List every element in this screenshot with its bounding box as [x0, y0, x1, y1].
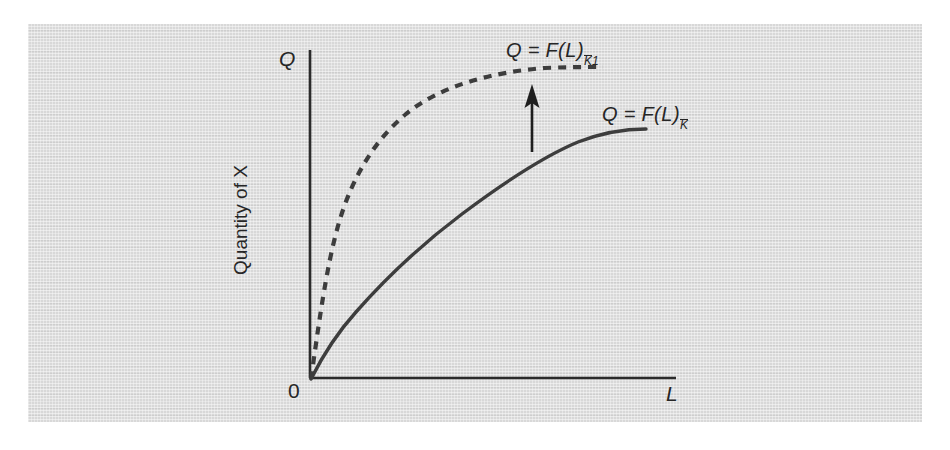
curve-shifted-subscript-index: 1	[592, 54, 599, 68]
shift-arrow-icon	[525, 84, 540, 152]
y-axis-letter-label: Q	[279, 48, 295, 69]
curve-shifted-dashed	[311, 67, 603, 379]
curve-base-lhs: Q	[602, 103, 618, 125]
curve-shifted-function: F(L)	[545, 39, 584, 61]
origin-label: 0	[288, 380, 300, 401]
curve-base-solid	[311, 129, 646, 379]
production-function-figure: Q L 0 Quantity of X Q = F(L)K1 Q = F(L)K	[0, 0, 950, 450]
plot-canvas	[0, 0, 950, 450]
x-axis-letter-label: L	[666, 383, 678, 404]
curve-base-subscript-base: K	[680, 118, 688, 131]
curve-label-base: Q = F(L)K	[602, 104, 688, 128]
curve-shifted-subscript-base: K	[584, 54, 592, 67]
y-axis-title: Quantity of X	[231, 165, 250, 275]
curve-base-equals: =	[624, 103, 636, 125]
curve-base-function: F(L)	[641, 103, 680, 125]
curve-shifted-lhs: Q	[506, 39, 522, 61]
curve-label-shifted: Q = F(L)K1	[506, 40, 599, 64]
curve-shifted-equals: =	[528, 39, 540, 61]
